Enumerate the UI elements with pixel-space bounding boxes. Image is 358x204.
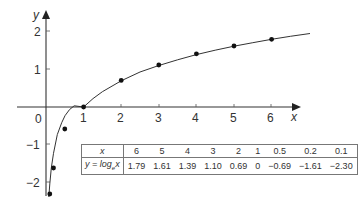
- table-cell: 1: [251, 145, 264, 158]
- table-cell: 4: [175, 145, 201, 158]
- data-point: [156, 63, 161, 68]
- x-tick-label-4: 4: [192, 112, 199, 124]
- table-cell: 3: [200, 145, 226, 158]
- y-axis-arrow-icon: [42, 10, 50, 19]
- table-cell: 2: [226, 145, 252, 158]
- y-header-prefix: y = log: [85, 159, 112, 169]
- table-cell: 0.1: [326, 145, 357, 158]
- y-tick-label-2: 2: [34, 26, 41, 38]
- data-point: [62, 127, 67, 132]
- table-cell: 1.39: [175, 158, 201, 174]
- table-cell: 5: [149, 145, 175, 158]
- data-point: [232, 44, 237, 49]
- data-point: [119, 78, 124, 83]
- table-cell: 0: [251, 158, 264, 174]
- x-tick-label-2: 2: [117, 112, 124, 124]
- table-cell: 1.79: [123, 158, 149, 174]
- table-cell: 6: [123, 145, 149, 158]
- data-point: [47, 192, 52, 197]
- table-cell: 0.5: [264, 145, 295, 158]
- data-point: [269, 37, 274, 42]
- origin-label: 0: [35, 113, 42, 125]
- y-tick-label-neg2: −2: [26, 177, 40, 189]
- x-tick-label-5: 5: [230, 112, 237, 124]
- table-cell: −0.69: [264, 158, 295, 174]
- table-cell: 1.10: [200, 158, 226, 174]
- data-point: [51, 166, 56, 171]
- table-row-x: x 6 5 4 3 2 1 0.5 0.2 0.1: [82, 145, 357, 158]
- x-tick-label-6: 6: [267, 112, 274, 124]
- x-axis-label: x: [291, 111, 297, 123]
- table-row-y: y = logex 1.79 1.61 1.39 1.10 0.69 0 −0.…: [82, 158, 357, 174]
- table-header-x: x: [82, 145, 123, 158]
- table-cell: −2.30: [326, 158, 357, 174]
- y-header-suffix: x: [115, 159, 120, 169]
- y-tick-label-1: 1: [34, 64, 41, 76]
- data-point: [194, 51, 199, 56]
- data-point: [81, 105, 86, 110]
- values-table: x 6 5 4 3 2 1 0.5 0.2 0.1 y = logex 1.79…: [81, 144, 358, 175]
- table-cell: −1.61: [295, 158, 326, 174]
- y-axis-label: y: [33, 9, 39, 21]
- table-cell: 1.61: [149, 158, 175, 174]
- table-cell: 0.2: [295, 145, 326, 158]
- table-header-y: y = logex: [82, 158, 123, 174]
- table-cell: 0.69: [226, 158, 252, 174]
- x-tick-label-1: 1: [80, 112, 87, 124]
- x-tick-label-3: 3: [155, 112, 162, 124]
- y-tick-label-neg1: −1: [26, 139, 40, 151]
